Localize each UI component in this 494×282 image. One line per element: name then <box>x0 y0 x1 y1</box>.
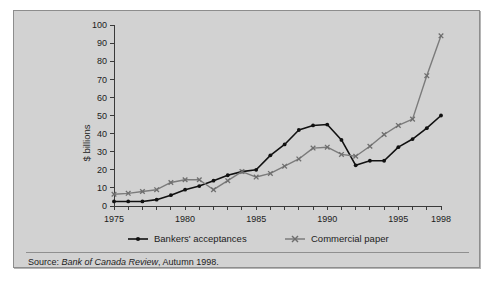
y-tick-label: 10 <box>97 183 107 193</box>
data-point-marker <box>368 144 373 149</box>
data-point-marker <box>382 132 387 137</box>
x-tick-label: 1980 <box>175 214 195 224</box>
legend-item-bankers-acceptances: Bankers' acceptances <box>127 233 247 244</box>
data-point-marker <box>225 178 230 183</box>
data-point-marker <box>382 159 386 163</box>
x-tick-label: 1975 <box>104 214 124 224</box>
data-point-marker <box>126 200 130 204</box>
y-tick-label: 100 <box>92 20 107 30</box>
source-suffix: , Autumn 1998. <box>158 257 219 267</box>
data-point-marker <box>368 159 372 163</box>
series-line-bankers-acceptances <box>114 116 441 202</box>
data-point-marker <box>112 200 116 204</box>
data-point-marker <box>268 153 272 157</box>
data-point-marker <box>169 193 173 197</box>
source-note: Source: Bank of Canada Review, Autumn 19… <box>28 257 219 267</box>
legend-marker-dot-icon <box>127 234 149 244</box>
source-prefix: Source: <box>28 257 59 267</box>
y-axis-title: $ billions <box>81 124 92 161</box>
data-point-marker <box>411 137 415 141</box>
y-tick-label: 90 <box>97 38 107 48</box>
x-tick-label: 1990 <box>317 214 337 224</box>
legend-item-commercial-paper: Commercial paper <box>284 233 389 244</box>
y-tick-label: 20 <box>97 165 107 175</box>
x-tick-label: 1995 <box>388 214 408 224</box>
line-chart-svg: 0102030405060708090100 19751980198519901… <box>14 11 481 269</box>
y-axis: 0102030405060708090100 <box>92 20 114 211</box>
y-tick-label: 40 <box>97 129 107 139</box>
y-tick-label: 0 <box>102 201 107 211</box>
y-tick-label: 50 <box>97 111 107 121</box>
data-point-marker <box>254 168 258 172</box>
y-tick-label: 70 <box>97 75 107 85</box>
data-point-marker <box>354 163 358 167</box>
chart-series-group <box>112 34 444 204</box>
series-line-commercial-paper <box>114 36 441 194</box>
data-point-marker <box>282 164 287 169</box>
data-point-marker <box>211 187 216 192</box>
y-tick-label: 80 <box>97 56 107 66</box>
x-axis: 197519801985199019951998 <box>104 206 451 224</box>
data-point-marker <box>425 126 429 130</box>
source-publication: Bank of Canada Review <box>62 257 159 267</box>
data-point-marker <box>325 123 329 127</box>
legend-marker-cross-icon <box>284 234 306 244</box>
chart-legend: Bankers' acceptances Commercial paper <box>14 233 481 251</box>
data-point-marker <box>183 188 187 192</box>
data-point-marker <box>212 179 216 183</box>
legend-label-commercial-paper: Commercial paper <box>311 233 389 244</box>
source-divider <box>26 252 469 253</box>
y-tick-label: 30 <box>97 147 107 157</box>
data-point-marker <box>297 128 301 132</box>
x-tick-label: 1985 <box>246 214 266 224</box>
data-point-marker <box>197 184 201 188</box>
data-point-marker <box>396 145 400 149</box>
chart-figure-panel: 0102030405060708090100 19751980198519901… <box>13 10 480 268</box>
data-point-marker <box>141 200 145 204</box>
data-point-marker <box>311 124 315 128</box>
data-point-marker <box>226 173 230 177</box>
data-point-marker <box>340 138 344 142</box>
y-tick-label: 60 <box>97 93 107 103</box>
legend-label-bankers-acceptances: Bankers' acceptances <box>154 233 247 244</box>
chart-plot-area: 0102030405060708090100 19751980198519901… <box>14 11 481 269</box>
data-point-marker <box>155 198 159 202</box>
data-point-marker <box>439 114 443 118</box>
x-tick-label: 1998 <box>431 214 451 224</box>
data-point-marker <box>283 143 287 147</box>
data-point-marker <box>297 157 302 162</box>
